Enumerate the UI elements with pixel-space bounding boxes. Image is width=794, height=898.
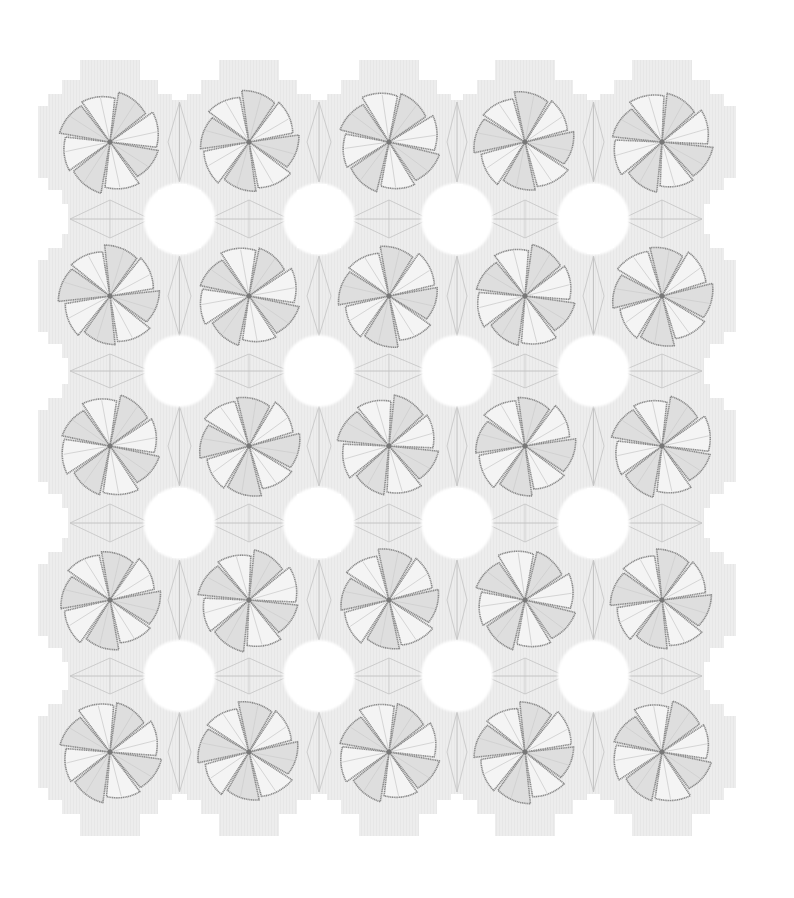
void-hole [558,183,630,255]
void-hole [283,183,355,255]
void-hole [421,640,493,712]
void-hole [558,487,630,559]
void-hole [558,640,630,712]
void-hole [144,640,216,712]
void-hole [283,487,355,559]
void-hole [144,487,216,559]
void-hole [283,335,355,407]
void-hole [283,640,355,712]
origami-tessellation-photo [0,0,794,898]
void-hole [144,183,216,255]
void-hole [421,335,493,407]
void-hole [421,487,493,559]
void-hole [558,335,630,407]
void-hole [421,183,493,255]
void-hole [144,335,216,407]
